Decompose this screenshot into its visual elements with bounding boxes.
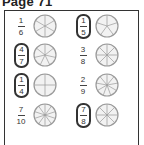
pie-circle-icon[interactable] <box>33 103 57 127</box>
numerator: 1 <box>19 16 23 25</box>
pie-circle-icon[interactable] <box>33 14 57 38</box>
pie-circle-icon[interactable] <box>95 73 119 97</box>
circled-fraction[interactable]: 15 <box>76 14 91 39</box>
fraction[interactable]: 38 <box>77 43 89 67</box>
denominator: 9 <box>81 87 85 96</box>
numerator: 7 <box>19 105 23 114</box>
fraction-item[interactable]: 38 <box>76 41 136 69</box>
pie-circle-icon[interactable] <box>95 103 119 127</box>
fraction-bar <box>80 115 87 116</box>
fraction[interactable]: 29 <box>77 73 89 97</box>
fraction[interactable]: 710 <box>15 103 27 127</box>
numerator: 1 <box>19 75 23 84</box>
denominator: 5 <box>81 28 85 37</box>
fraction-bar <box>80 85 87 86</box>
numerator: 2 <box>81 75 85 84</box>
fraction-bar <box>18 55 25 56</box>
pie-circle-icon[interactable] <box>95 14 119 38</box>
fraction-bar <box>80 26 87 27</box>
fraction-item[interactable]: 14 <box>14 71 74 99</box>
denominator: 8 <box>81 57 85 66</box>
numerator: 7 <box>81 105 85 114</box>
fraction-item[interactable]: 710 <box>14 101 74 129</box>
fraction-bar <box>80 55 87 56</box>
fraction-bar <box>18 26 25 27</box>
circled-fraction[interactable]: 47 <box>14 43 29 68</box>
numerator: 4 <box>19 45 23 54</box>
fraction-item[interactable]: 78 <box>76 101 136 129</box>
pie-circle-icon[interactable] <box>33 43 57 67</box>
fraction[interactable]: 16 <box>15 14 27 38</box>
circled-fraction[interactable]: 14 <box>14 73 29 98</box>
page-title: Page 71 <box>2 0 53 9</box>
pie-circle-icon[interactable] <box>95 43 119 67</box>
pie-circle-icon[interactable] <box>33 73 57 97</box>
denominator: 7 <box>19 57 23 66</box>
fraction-item[interactable]: 29 <box>76 71 136 99</box>
fraction-item[interactable]: 47 <box>14 41 74 69</box>
fraction-item[interactable]: 16 <box>14 12 74 40</box>
numerator: 3 <box>81 45 85 54</box>
denominator: 10 <box>17 117 26 126</box>
fraction-bar <box>18 115 25 116</box>
numerator: 1 <box>81 16 85 25</box>
fraction-bar <box>18 85 25 86</box>
denominator: 8 <box>81 117 85 126</box>
denominator: 4 <box>19 87 23 96</box>
fraction-item[interactable]: 15 <box>76 12 136 40</box>
circled-fraction[interactable]: 78 <box>76 103 91 128</box>
denominator: 6 <box>19 28 23 37</box>
